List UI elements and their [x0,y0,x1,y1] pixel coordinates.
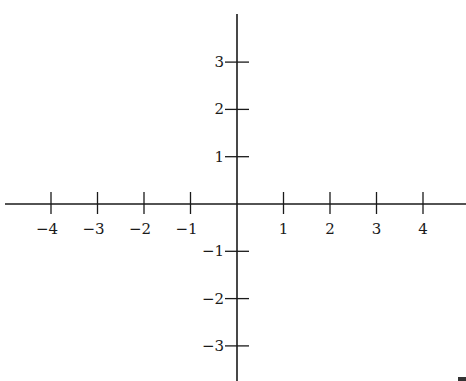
y-tick-label: 2 [214,100,224,118]
x-tick-label: −2 [129,220,151,238]
x-tick-label: 2 [325,220,335,238]
y-tick-label: −2 [202,290,224,308]
y-tick-label: −3 [202,337,224,355]
x-tick-label: 3 [372,220,382,238]
x-axis-ticks: −4−3−2−11234 [36,192,428,238]
x-tick-label: −4 [36,220,58,238]
scan-artifact [458,377,466,381]
y-tick-label: 1 [214,148,224,166]
coordinate-plane: −4−3−2−11234 321−1−2−3 [0,0,466,381]
y-tick-label: −1 [202,242,224,260]
x-tick-label: −1 [175,220,197,238]
y-tick-label: 3 [214,53,224,71]
x-tick-label: −3 [82,220,104,238]
x-tick-label: 4 [418,220,428,238]
x-tick-label: 1 [279,220,289,238]
